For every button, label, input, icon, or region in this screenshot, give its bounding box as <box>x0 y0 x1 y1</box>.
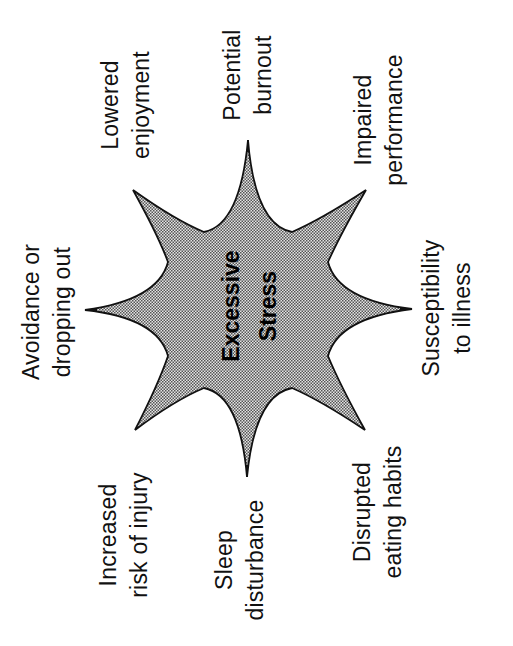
central-concept-line2: Stress <box>250 250 287 361</box>
stress-consequences-diagram: Excessive Stress Lowered enjoyment Poten… <box>0 0 513 646</box>
central-concept-line1: Excessive <box>213 250 250 361</box>
